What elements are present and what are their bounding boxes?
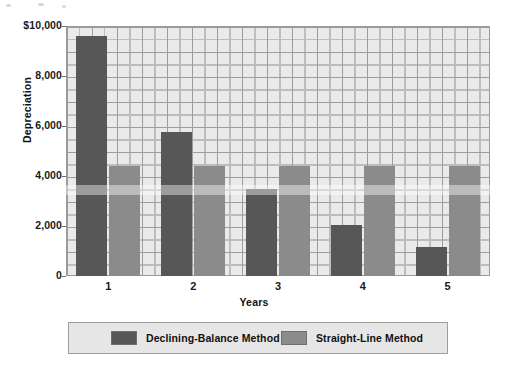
depreciation-bar-chart: 02,0004,0006,0008,000$10,000 12345 Depre… [0,0,508,372]
bar-declining-balance-year-2 [161,132,192,276]
legend-swatch-icon [111,331,137,345]
bar-declining-balance-year-5 [416,247,447,276]
legend-swatch-icon [281,331,307,345]
bar-declining-balance-year-4 [331,225,362,276]
legend-item-declining-balance: Declining-Balance Method [111,331,280,345]
x-axis-title: Years [0,296,508,308]
bars-layer [66,26,490,276]
y-axis-title: Depreciation [21,50,33,170]
y-axis-tick-label: 0 [2,270,62,281]
y-axis-tick-mark [62,276,66,277]
x-axis-tick-label: 1 [88,280,128,292]
bar-declining-balance-year-1 [76,36,107,276]
legend-item-straight-line: Straight-Line Method [281,331,423,345]
scan-artifact [62,5,66,8]
bar-straight-line-year-3 [279,166,310,276]
legend-label: Declining-Balance Method [146,332,280,344]
bar-declining-balance-year-3 [246,189,277,277]
bar-straight-line-year-1 [109,166,140,276]
x-axis-tick-label: 5 [428,280,468,292]
y-axis-tick-label: $10,000 [2,20,62,31]
x-axis-tick-label: 2 [173,280,213,292]
legend-label: Straight-Line Method [316,332,423,344]
bar-straight-line-year-4 [364,166,395,276]
y-axis-tick-label: 2,000 [2,220,62,231]
x-axis-tick-label: 4 [343,280,383,292]
bar-straight-line-year-5 [449,166,480,276]
y-axis-tick-label: 4,000 [2,170,62,181]
x-axis-tick-label: 3 [258,280,298,292]
chart-legend: Declining-Balance Method Straight-Line M… [68,322,448,354]
bar-straight-line-year-2 [194,166,225,276]
